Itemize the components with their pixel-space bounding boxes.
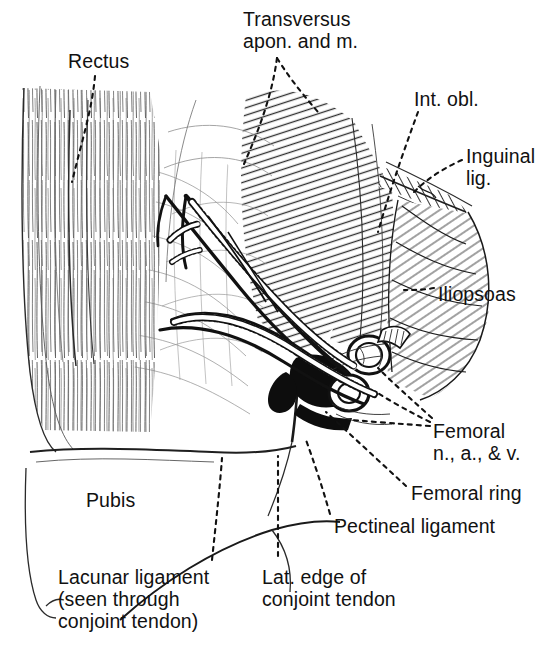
label-lat-edge-of-conjoint-tendon: Lat. edge of conjoint tendon xyxy=(262,566,396,610)
label-int-obl: Int. obl. xyxy=(414,88,479,110)
label-femoral-ring: Femoral ring xyxy=(411,482,522,504)
label-femoral-n-a-v: Femoral n., a., & v. xyxy=(433,420,521,464)
label-pectineal-ligament: Pectineal ligament xyxy=(334,515,495,537)
label-rectus: Rectus xyxy=(68,50,129,72)
label-iliopsoas: Iliopsoas xyxy=(438,283,516,305)
label-lacunar-ligament: Lacunar ligament (seen through conjoint … xyxy=(58,566,209,632)
label-pubis: Pubis xyxy=(86,489,135,511)
anatomy-figure-page: Rectus Transversus apon. and m. Int. obl… xyxy=(0,0,553,655)
label-transversus-apon-and-m: Transversus apon. and m. xyxy=(243,8,358,52)
label-inguinal-lig: Inguinal lig. xyxy=(466,145,535,189)
